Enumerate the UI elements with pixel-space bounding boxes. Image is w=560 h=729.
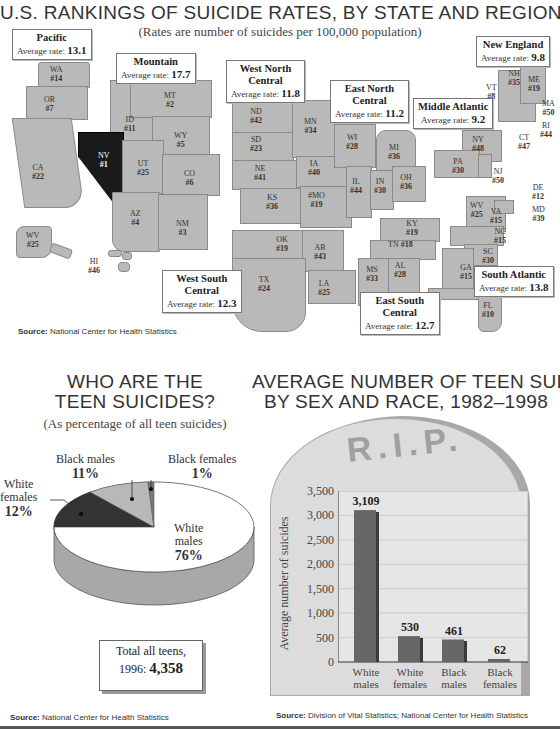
state-label-ia: IA#40 [308,160,320,178]
bar-value-white-females: 530 [385,620,435,635]
bar-value-white-males: 3,109 [341,494,391,509]
state-label-va: VA#15 [490,208,502,226]
bar-category: Whitefemales [387,667,433,690]
state-label-ct: CT#47 [518,134,530,152]
state-nj [478,154,492,178]
state-label-tn: TN #18 [388,241,413,250]
ytick: 3,000 [294,508,334,523]
state-tx [232,258,306,332]
state-label-nj: NJ#50 [492,168,504,186]
region-mountain: Mountain Average rate: 17.7 [116,53,196,84]
ytick: 3,500 [294,484,334,499]
state-label-mo: #MO#19 [308,192,325,210]
state-label-al: AL#28 [394,262,406,280]
bar-source: Source: Division of Vital Statistics; Na… [276,711,528,720]
bar-white-females [398,636,420,662]
state-ne [232,160,300,190]
state-label-ak: WV#25 [26,232,39,250]
state-label-wi: WI#28 [346,134,358,152]
state-label-az: AZ#4 [130,210,141,228]
state-label-fl: FL#10 [482,302,494,320]
ytick: 500 [294,631,334,646]
state-label-ne: NE#41 [254,165,266,183]
state-label-tx: TX#24 [258,276,270,294]
state-hi-island [118,262,130,272]
region-middle-atlantic: Middle Atlantic Average rate: 9.2 [413,98,493,129]
state-label-de: DE#12 [532,184,544,202]
state-label-ut: UT#25 [137,160,149,178]
state-label-or: OR#7 [44,96,55,114]
pie-label-white-females: Whitefemales12% [0,478,37,520]
state-or [26,86,88,120]
bar-value-black-females: 62 [475,643,525,658]
state-label-wv: WV#25 [470,202,483,220]
state-label-oh: OH#36 [400,174,412,192]
state-label-ny: NY#48 [472,136,484,154]
ytick: 1,000 [294,606,334,621]
state-label-mt: MT#2 [164,92,176,110]
ytick: 1,500 [294,582,334,597]
state-label-sc: SC#30 [482,248,494,266]
ytick: 0 [294,655,334,670]
pie-total-box: Total all teens, 1996: 4,358 [99,640,203,691]
region-west-north-central: West North Central Average rate: 11.8 [226,60,305,103]
bar-white-males [354,510,376,662]
state-label-me: ME#19 [528,76,540,94]
ytick: 2,500 [294,533,334,548]
state-label-ga: GA#15 [460,264,472,282]
state-label-ks: KS#36 [266,194,278,212]
state-label-mi: MI#36 [388,144,400,162]
state-wa [38,62,90,88]
state-ak-panhandle [49,243,73,260]
pie-label-black-females: Black females1% [168,453,236,482]
state-label-mn: MN#34 [304,118,317,136]
state-la [308,270,356,304]
state-label-id: ID#11 [124,116,136,134]
state-label-nd: ND#42 [250,108,262,126]
bar-ylabel: Average number of suicides [277,507,292,661]
state-hi-island [108,250,122,257]
state-label-sd: SD#23 [250,136,262,154]
state-label-la: LA#25 [318,280,330,298]
state-label-ok: OK#19 [276,236,288,254]
state-sd [232,132,294,162]
map-title: U.S. RANKINGS OF SUICIDE RATES, BY STATE… [0,2,560,24]
map-source: Source: National Center for Health Stati… [18,327,177,336]
ytick: 2,000 [294,557,334,572]
pie-title: WHO ARE THE TEEN SUICIDES? [0,372,270,412]
state-label-pa: PA#30 [452,158,464,176]
state-label-hi: HI#46 [88,258,100,276]
state-ca [12,118,85,208]
state-label-ky: KY#19 [406,220,418,238]
state-label-nh: NH#35 [508,70,520,88]
state-label-ri: RI#44 [540,122,552,140]
state-label-ca: CA#22 [32,164,44,182]
bar-title: AVERAGE NUMBER OF TEEN SUICIDES, BY SEX … [252,372,560,412]
bar-ylabel-wrap: Average number of suicides [277,510,291,660]
bar-black-males [442,640,464,663]
state-hi-island [122,252,132,260]
pie-label-white-males: Whitemales76% [174,522,203,564]
state-label-ms: MS#33 [366,266,378,284]
state-label-nm: NM#3 [176,220,189,238]
pie-source: Source: National Center for Health Stati… [10,713,169,722]
state-label-nv: NV#1 [98,152,110,170]
state-nd [232,100,294,134]
state-label-wa: WA#14 [50,66,62,84]
region-east-north-central: East North Central Average rate: 11.2 [330,80,409,123]
bar-category: Whitemales [343,667,389,690]
bar-category: Blackfemales [477,667,523,690]
bar-category: Blackmales [431,667,477,690]
region-south-atlantic: South Atlantic Average rate: 13.8 [474,266,554,297]
region-west-south-central: West South Central Average rate: 12.3 [162,270,242,313]
region-east-south-central: East South Central Average rate: 12.7 [360,292,440,335]
state-label-md: MD#39 [532,206,545,224]
pie-subtitle: (As percentage of all teen suicides) [0,416,270,432]
state-label-co: CO#6 [184,170,195,188]
region-pacific: Pacific Average rate: 13.1 [12,29,92,60]
state-label-wy: WY#5 [174,132,187,150]
state-label-in: IN#30 [374,178,386,196]
bar-value-black-males: 461 [429,624,479,639]
state-label-ar: AR#43 [314,244,326,262]
pie-label-black-males: Black males11% [56,453,115,482]
